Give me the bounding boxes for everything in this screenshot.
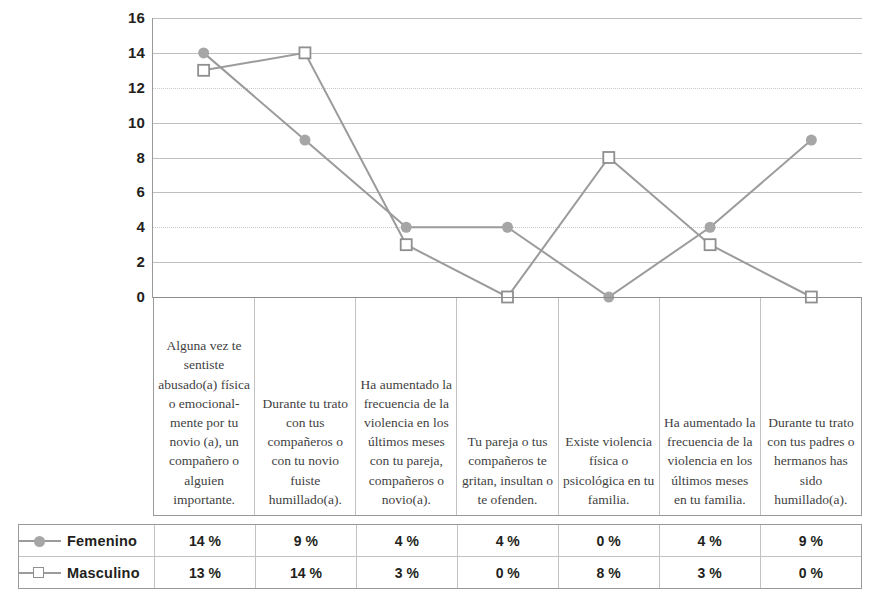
value-cell: 0 % [558, 525, 659, 557]
values-table: Femenino14 %9 %4 %4 %0 %4 %9 %Masculino1… [19, 525, 861, 588]
value-cell: 3 % [356, 557, 457, 589]
category-cell: Tu pareja o tus compañeros te gritan, in… [457, 298, 558, 515]
series-line-masculino [204, 53, 812, 297]
category-label-band: Alguna vez te sentiste abusado(a) física… [153, 297, 862, 516]
value-cell: 14 % [155, 525, 256, 557]
y-axis-tick-labels: 0246810121416 [0, 0, 145, 320]
y-axis-tick-label: 6 [0, 183, 145, 200]
data-point-marker-femenino [502, 222, 513, 233]
category-cell: Durante tu trato con tus padres o herman… [761, 298, 861, 515]
category-label: Tu pareja o tus compañeros te gritan, in… [461, 432, 553, 509]
data-point-marker-femenino [401, 222, 412, 233]
legend-cell-femenino[interactable]: Femenino [19, 525, 155, 557]
value-cell: 14 % [255, 557, 356, 589]
legend-data-table: Femenino14 %9 %4 %4 %0 %4 %9 %Masculino1… [18, 524, 862, 589]
data-point-marker-femenino [198, 47, 209, 58]
table-row: Masculino13 %14 %3 %0 %8 %3 %0 % [19, 557, 861, 589]
category-cell: Ha aumentado la frecuencia de la violenc… [356, 298, 457, 515]
y-axis-tick-label: 0 [0, 288, 145, 305]
value-cell: 0 % [457, 557, 558, 589]
table-row: Femenino14 %9 %4 %4 %0 %4 %9 % [19, 525, 861, 557]
data-point-marker-femenino [299, 135, 310, 146]
value-cell: 0 % [760, 557, 861, 589]
legend-cell-masculino[interactable]: Masculino [19, 557, 155, 589]
legend-circle-marker-icon [19, 534, 61, 548]
value-cell: 4 % [659, 525, 760, 557]
value-cell: 4 % [356, 525, 457, 557]
data-point-marker-femenino [705, 222, 716, 233]
category-cell: Alguna vez te sentiste abusado(a) física… [154, 298, 255, 515]
value-cell: 8 % [558, 557, 659, 589]
data-point-marker-masculino [401, 239, 412, 250]
y-axis-tick-label: 14 [0, 44, 145, 61]
data-point-marker-masculino [603, 152, 614, 163]
values-table-body: Femenino14 %9 %4 %4 %0 %4 %9 %Masculino1… [19, 525, 861, 588]
y-axis-tick-label: 16 [0, 9, 145, 26]
data-series-layer [153, 18, 862, 298]
category-label: Existe violencia física o psicológica en… [563, 432, 655, 509]
value-cell: 13 % [155, 557, 256, 589]
category-cell: Durante tu trato con tus compañeros o co… [255, 298, 356, 515]
y-axis-tick-label: 4 [0, 218, 145, 235]
category-label: Ha aumentado la frecuencia de la violenc… [360, 375, 452, 509]
legend-square-marker-icon [19, 566, 61, 580]
category-label: Alguna vez te sentiste abusado(a) física… [158, 336, 250, 509]
data-point-marker-masculino [299, 47, 310, 58]
category-label: Ha aumentado la frecuencia de la violenc… [664, 413, 756, 509]
y-axis-tick-label: 12 [0, 79, 145, 96]
category-label: Durante tu trato con tus compañeros o co… [259, 394, 351, 509]
y-axis-tick-label: 2 [0, 253, 145, 270]
series-line-femenino [204, 53, 812, 297]
legend-label: Masculino [67, 565, 140, 581]
value-cell: 9 % [760, 525, 861, 557]
value-cell: 4 % [457, 525, 558, 557]
line-chart-figure: 0246810121416 Alguna vez te sentiste abu… [0, 0, 869, 606]
y-axis-tick-label: 10 [0, 114, 145, 131]
legend-label: Femenino [67, 533, 137, 549]
category-cell: Ha aumentado la frecuencia de la violenc… [660, 298, 761, 515]
data-point-marker-masculino [705, 239, 716, 250]
value-cell: 9 % [255, 525, 356, 557]
data-point-marker-masculino [198, 65, 209, 76]
data-point-marker-femenino [806, 135, 817, 146]
value-cell: 3 % [659, 557, 760, 589]
category-label: Durante tu trato con tus padres o herman… [765, 413, 857, 509]
y-axis-tick-label: 8 [0, 149, 145, 166]
category-cell: Existe violencia física o psicológica en… [559, 298, 660, 515]
